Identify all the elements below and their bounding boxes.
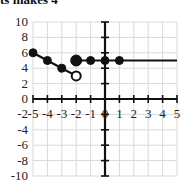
x-tick-label: -5 [28, 106, 39, 121]
x-tick-label: 4 [159, 106, 166, 121]
x-tick-label: 3 [145, 106, 152, 121]
piecewise-function-graph: 1086420-2-4-6-8-10-5-4-3-2-1012345 [0, 0, 184, 186]
open-point-marker [72, 71, 81, 80]
closed-point-marker [71, 55, 82, 66]
x-tick-label: 0 [102, 106, 109, 121]
y-tick-label: 6 [22, 45, 29, 60]
closed-point-marker [58, 64, 66, 72]
y-tick-label: 10 [15, 14, 28, 29]
y-tick-label: -4 [17, 122, 28, 137]
x-tick-label: -1 [85, 106, 96, 121]
x-tick-label: 5 [174, 106, 181, 121]
closed-point-marker [87, 57, 95, 65]
x-tick-label: 2 [131, 106, 138, 121]
y-tick-label: 0 [22, 91, 29, 106]
y-tick-label: 8 [22, 29, 29, 44]
axes [33, 22, 177, 176]
x-tick-label: 1 [116, 106, 123, 121]
closed-point-marker [115, 57, 123, 65]
y-tick-label: -6 [17, 137, 28, 152]
closed-point-marker [101, 57, 109, 65]
y-tick-label: -2 [17, 106, 28, 121]
y-tick-label: -10 [11, 168, 28, 183]
closed-point-marker [29, 49, 37, 57]
segment-1-line [33, 53, 76, 76]
y-tick-label: 4 [22, 60, 29, 75]
y-tick-label: 2 [22, 76, 29, 91]
x-tick-label: -2 [71, 106, 82, 121]
x-tick-label: -4 [42, 106, 53, 121]
x-tick-label: -3 [56, 106, 67, 121]
y-tick-label: -8 [17, 153, 28, 168]
closed-point-marker [43, 57, 51, 65]
